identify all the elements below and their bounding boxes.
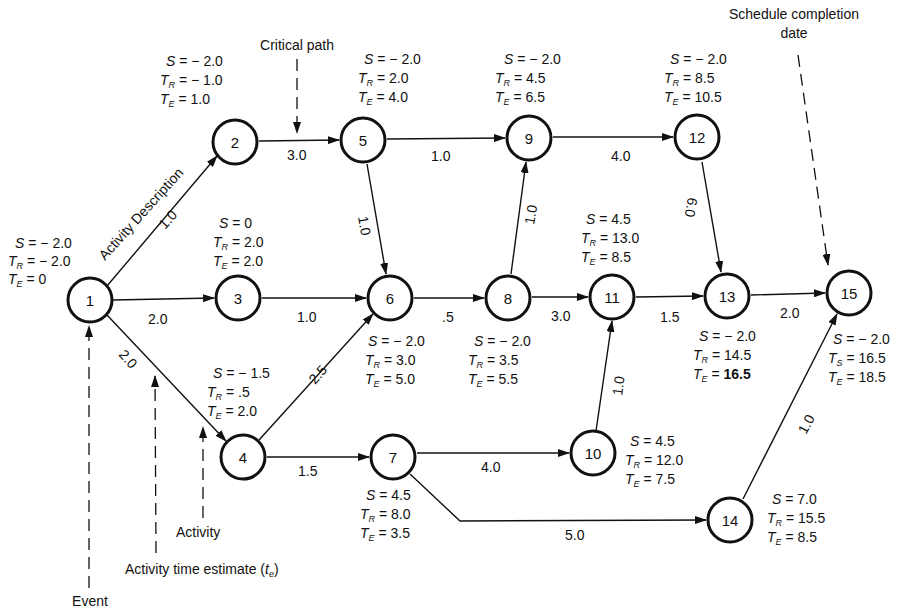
event-node-3: 3 (216, 276, 260, 320)
edge-time-10-11: 1.0 (609, 375, 628, 397)
edge-time-1-3: 2.0 (148, 311, 168, 327)
event-node-1-number: 1 (86, 292, 94, 309)
edge-10-11 (596, 321, 612, 431)
edge-time-2-5: 3.0 (287, 147, 307, 163)
event-node-12-number: 12 (689, 129, 706, 146)
event-node-4: 4 (221, 435, 265, 479)
edge-time-14-15: 1.0 (795, 412, 818, 437)
event-node-3-number: 3 (234, 290, 242, 307)
node-info-12: S = − 2.0 TR = 8.5 TE = 10.5 (664, 51, 727, 107)
svg-text:TE = 5.5: TE = 5.5 (468, 371, 518, 389)
event-node-5: 5 (341, 118, 385, 162)
edge-11-13 (636, 296, 703, 297)
event-node-13: 13 (705, 274, 749, 318)
svg-text:TE = 0: TE = 0 (8, 271, 47, 289)
svg-text:TE = 10.5: TE = 10.5 (664, 89, 722, 107)
event-node-11-number: 11 (604, 289, 620, 306)
activity-label: Activity (176, 524, 220, 540)
edge-time-7-10: 4.0 (481, 459, 501, 475)
svg-text:TE = 18.5: TE = 18.5 (828, 369, 886, 387)
edge-1-4 (107, 315, 226, 441)
svg-text:TE = 2.0: TE = 2.0 (207, 403, 257, 421)
svg-text:S = 4.5: S = 4.5 (630, 433, 675, 449)
edge-time-12-13: 6.0 (682, 196, 701, 218)
event-node-4-number: 4 (239, 449, 247, 466)
event-node-12: 12 (675, 115, 719, 159)
svg-text:TR = 2.0: TR = 2.0 (213, 234, 264, 252)
event-node-7: 7 (371, 435, 415, 479)
node-info-13: S = − 2.0 TR = 14.5 TE = 16.5 (693, 328, 756, 384)
edge-time-13-15: 2.0 (780, 305, 800, 321)
event-node-15-number: 15 (841, 285, 858, 302)
schedule-completion-pointer (798, 55, 828, 265)
edge-time-5-9: 1.0 (431, 148, 451, 164)
svg-text:TE = 4.0: TE = 4.0 (358, 89, 408, 107)
svg-text:S = 4.5: S = 4.5 (366, 487, 411, 503)
svg-text:S = − 1.5: S = − 1.5 (213, 365, 270, 381)
schedule-completion-label-line2: date (780, 25, 807, 41)
svg-text:TR = 2.0: TR = 2.0 (358, 70, 409, 88)
event-node-6-number: 6 (386, 290, 394, 307)
schedule-completion-label-line1: Schedule completion (729, 6, 859, 22)
edge-5-9 (387, 138, 505, 139)
edge-time-11-13: 1.5 (660, 309, 680, 325)
node-info-4: S = − 1.5 TR = .5 TE = 2.0 (207, 365, 270, 421)
svg-text:S = − 2.0: S = − 2.0 (699, 328, 756, 344)
svg-text:TR = .5: TR = .5 (207, 384, 250, 402)
edge-time-5-6: 1.0 (355, 215, 374, 237)
event-node-7-number: 7 (389, 449, 397, 466)
node-info-7: S = 4.5 TR = 8.0 TE = 3.5 (360, 487, 411, 543)
svg-text:TR = 12.0: TR = 12.0 (625, 452, 683, 470)
edge-time-8-11: 3.0 (551, 308, 571, 324)
edge-time-6-8: .5 (442, 309, 454, 325)
svg-text:TE = 2.0: TE = 2.0 (213, 253, 263, 271)
svg-text:TE = 8.5: TE = 8.5 (581, 249, 631, 267)
edge-14-15 (743, 314, 837, 499)
svg-text:S = − 2.0: S = − 2.0 (670, 51, 727, 67)
edge-1-3 (113, 298, 214, 300)
svg-text:TR = 3.0: TR = 3.0 (365, 352, 416, 370)
edge-time-4-7: 1.5 (298, 463, 318, 479)
pert-network-diagram: 1.0 2.0 2.0 3.0 1.0 2.5 1.5 1.0 1.0 .5 1… (0, 0, 903, 609)
edge-13-15 (751, 293, 825, 295)
edge-time-8-9: 1.0 (521, 203, 540, 225)
critical-path-label: Critical path (260, 37, 334, 53)
activity-time-estimate-label: Activity time estimate (te) (125, 561, 279, 579)
node-info-11: S = 4.5 TR = 13.0 TE = 8.5 (581, 211, 639, 267)
event-node-1: 1 (68, 278, 112, 322)
node-info-9: S = − 2.0 TR = 4.5 TE = 6.5 (495, 51, 561, 107)
svg-text:S = − 2.0: S = − 2.0 (368, 333, 425, 349)
event-node-11: 11 (590, 275, 634, 319)
activity-time-estimate-text: Activity time estimate ( (125, 561, 265, 577)
svg-text:TR = 8.5: TR = 8.5 (664, 70, 715, 88)
event-node-2: 2 (213, 120, 257, 164)
svg-text:S = − 2.0: S = − 2.0 (166, 53, 223, 69)
edge-time-1-4: 2.0 (116, 346, 141, 371)
svg-text:S = − 2.0: S = − 2.0 (833, 331, 890, 347)
event-node-9-number: 9 (525, 130, 533, 147)
svg-text:TE = 5.0: TE = 5.0 (365, 371, 415, 389)
node-info-3: S = 0 TR = 2.0 TE = 2.0 (213, 215, 264, 271)
event-node-9: 9 (507, 116, 551, 160)
activity-time-estimate-pointer (155, 376, 156, 553)
svg-text:TR = − 2.0: TR = − 2.0 (8, 253, 71, 271)
edge-time-1-2: 1.0 (155, 207, 180, 232)
svg-text:TE = 3.5: TE = 3.5 (360, 525, 410, 543)
event-node-8-number: 8 (504, 290, 512, 307)
edge-labels: 1.0 2.0 2.0 3.0 1.0 2.5 1.5 1.0 1.0 .5 1… (116, 147, 818, 543)
svg-text:TS = 16.5: TS = 16.5 (828, 350, 886, 368)
event-node-13-number: 13 (719, 288, 736, 305)
svg-text:S = 7.0: S = 7.0 (772, 491, 817, 507)
edge-time-7-14: 5.0 (565, 527, 585, 543)
node-info-2: S = − 2.0 TR = − 1.0 TE = 1.0 (160, 53, 223, 109)
edge-12-13 (702, 162, 721, 272)
svg-text:TR = 3.5: TR = 3.5 (468, 352, 519, 370)
event-node-5-number: 5 (359, 132, 367, 149)
svg-text:S = − 2.0: S = − 2.0 (474, 333, 531, 349)
svg-text:TE = 16.5: TE = 16.5 (693, 366, 751, 384)
svg-text:TR = 15.5: TR = 15.5 (767, 510, 825, 528)
event-node-14-number: 14 (722, 512, 739, 529)
node-info-1: S = − 2.0 TR = − 2.0 TE = 0 (8, 235, 72, 289)
svg-text:S = − 2.0: S = − 2.0 (15, 235, 72, 251)
event-node-8: 8 (486, 276, 530, 320)
